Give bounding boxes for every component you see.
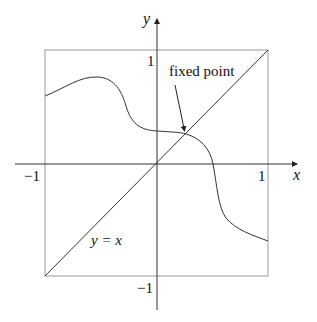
- y-axis-label: y: [141, 10, 151, 28]
- tick-label-y-1: 1: [147, 53, 155, 69]
- tick-label-y-neg1: −1: [137, 280, 153, 296]
- diagonal-label: y = x: [89, 232, 122, 248]
- tick-label-x-neg1: −1: [24, 168, 40, 184]
- fixed-point-diagram: y x 1 1 −1 −1 fixed point y = x: [0, 0, 317, 322]
- x-axis-label: x: [292, 166, 300, 183]
- fixed-point-arrow: [175, 85, 185, 131]
- tick-label-x-1: 1: [258, 168, 266, 184]
- fixed-point-label: fixed point: [169, 63, 235, 79]
